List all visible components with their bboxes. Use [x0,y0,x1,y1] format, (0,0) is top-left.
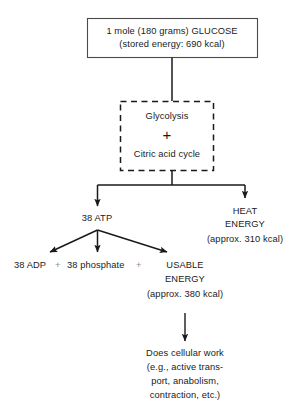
product-adp-label: 38 ADP [14,259,46,272]
heat-energy-line3: (approx. 310 kcal) [207,233,283,246]
usable-energy-line1: USABLE [166,259,203,272]
atp-node-label: 38 ATP [82,212,112,225]
usable-energy-line3: (approx. 380 kcal) [147,288,223,301]
cellular-work-line4: contraction, etc.) [150,389,221,402]
connector-atp-to-adp [50,230,98,252]
connector-atp-to-usable-energy [98,230,168,252]
product-plus-2: + [136,259,142,272]
usable-energy-line2: ENERGY [165,273,205,286]
glucose-box-line2: (stored energy: 690 kcal) [119,38,224,51]
heat-energy-line2: ENERGY [225,218,265,231]
pathway-glycolysis-label: Glycolysis [146,110,189,123]
glucose-box-line1: 1 mole (180 grams) GLUCOSE [106,25,237,38]
cellular-work-line3: port, anabolism, [151,375,219,388]
heat-energy-line1: HEAT [233,205,258,218]
pathway-plus-operator: + [163,127,172,142]
product-plus-1: + [55,259,61,272]
energy-flow-diagram: 1 mole (180 grams) GLUCOSE (stored energ… [0,0,307,413]
product-phosphate-label: 38 phosphate [67,259,125,272]
pathway-citric-acid-cycle-label: Citric acid cycle [134,148,200,161]
cellular-work-line1: Does cellular work [146,347,224,360]
cellular-work-line2: (e.g., active trans- [147,361,223,374]
